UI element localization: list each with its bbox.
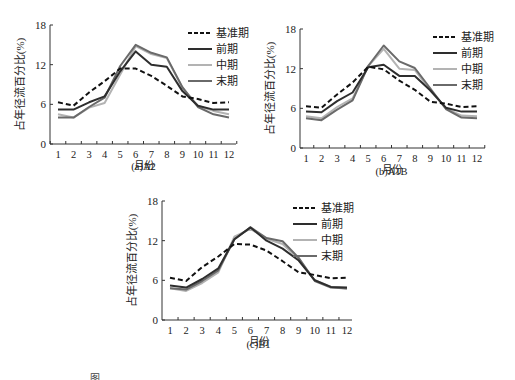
y-tick-label: 6 [153,274,159,286]
x-tick-label: 2 [183,325,188,336]
legend-label: 末期 [216,74,238,87]
y-tick-label: 6 [41,98,47,110]
x-tick-label: 4 [216,325,222,336]
legend-label: 前期 [461,46,483,59]
x-tick-label: 7 [397,153,402,164]
legend-label: 中期 [321,234,343,246]
x-tick-label: 10 [310,325,321,336]
legend: 基准期前期中期末期 [293,202,354,262]
x-tick-label: 11 [208,149,218,160]
y-tick-label: 18 [147,195,159,207]
chart-b1: 061218123456789101112月份占年径流百分比(%)(c)B1基准… [115,185,385,360]
y-tick-label: 18 [35,19,47,31]
x-tick-label: 9 [296,325,301,336]
legend: 基准期前期中期末期 [188,27,249,87]
x-tick-label: 5 [366,153,371,164]
y-tick-label: 12 [285,63,296,75]
x-tick-label: 12 [342,325,353,336]
x-tick-label: 8 [280,325,285,336]
chart-title: (a)A2 [131,161,156,173]
y-tick-label: 12 [35,59,46,71]
x-tick-label: 10 [441,153,452,164]
x-tick-label: 5 [232,325,237,336]
legend-label: 中期 [461,63,483,75]
y-tick-label: 6 [291,102,297,114]
chart-a1b-svg: 061218123456789101112月份占年径流百分比(%)(b)A1B基… [255,0,515,185]
chart-a2-svg: 061218123456789101112月份占年径流百分比(%)(a)A2基准… [0,0,260,180]
x-tick-label: 1 [303,153,308,164]
legend: 基准期前期中期末期 [433,31,494,91]
legend-label: 末期 [321,249,343,262]
figure-caption: 图 [90,370,380,380]
x-tick-label: 12 [224,149,235,160]
x-tick-label: 11 [456,153,466,164]
x-tick-label: 8 [164,149,169,160]
y-tick-label: 0 [153,314,159,326]
x-tick-label: 5 [118,149,123,160]
x-tick-label: 12 [472,153,483,164]
chart-title: (c)B1 [247,339,271,351]
x-tick-label: 10 [193,149,204,160]
legend-label: 基准期 [461,31,494,43]
x-tick-label: 9 [180,149,185,160]
y-tick-label: 18 [285,23,297,35]
x-tick-label: 4 [350,153,356,164]
x-tick-label: 7 [264,325,269,336]
y-tick-label: 0 [41,138,47,150]
y-axis-label: 占年径流百分比(%) [13,37,27,131]
x-tick-label: 8 [412,153,417,164]
x-tick-label: 6 [248,325,253,336]
chart-a1b: 061218123456789101112月份占年径流百分比(%)(b)A1B基… [255,0,515,185]
y-axis-label: 占年径流百分比(%) [263,41,277,135]
x-tick-label: 11 [326,325,336,336]
chart-title: (b)A1B [375,166,407,178]
x-tick-label: 4 [102,149,108,160]
series-line-mid [306,49,477,119]
x-tick-label: 6 [133,149,138,160]
chart-b1-svg: 061218123456789101112月份占年径流百分比(%)(c)B1基准… [115,185,385,360]
series-line-baseline [58,69,229,106]
x-tick-label: 1 [55,149,60,160]
x-tick-label: 2 [319,153,324,164]
x-tick-label: 9 [428,153,433,164]
x-tick-label: 6 [381,153,386,164]
x-tick-label: 1 [167,325,172,336]
x-tick-label: 3 [86,149,91,160]
series-line-baseline [306,67,477,108]
y-tick-label: 12 [147,235,158,247]
legend-label: 基准期 [216,27,249,39]
x-tick-label: 2 [71,149,76,160]
x-tick-label: 3 [334,153,339,164]
legend-label: 前期 [216,42,238,55]
x-tick-label: 7 [149,149,154,160]
x-tick-label: 3 [200,325,205,336]
y-axis-label: 占年径流百分比(%) [125,213,139,307]
legend-label: 基准期 [321,202,354,214]
legend-label: 中期 [216,59,238,71]
legend-label: 末期 [461,78,483,91]
chart-a2: 061218123456789101112月份占年径流百分比(%)(a)A2基准… [0,0,260,180]
y-tick-label: 0 [291,142,297,154]
legend-label: 前期 [321,217,343,230]
